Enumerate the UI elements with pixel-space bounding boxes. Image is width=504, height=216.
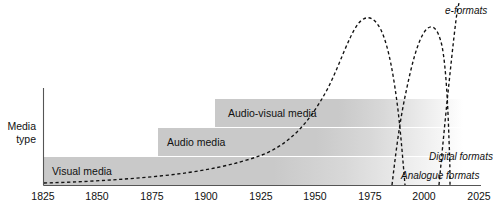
x-axis-ticks: 1825 1850 1875 1900 1925 1950 1975 2000 … — [31, 190, 491, 202]
curve-label-digital-formats: Digital formats — [429, 151, 493, 162]
x-tick-label: 1900 — [194, 190, 218, 202]
band-label-audio-media: Audio media — [167, 136, 226, 148]
curve-label-analogue-formats: Analogue formats — [400, 170, 479, 181]
y-axis-label-line2: type — [16, 133, 36, 145]
x-tick-label: 2025 — [467, 190, 491, 202]
band-label-visual-media: Visual media — [52, 165, 112, 177]
chart-container: Visual media Audio media Audio-visual me… — [0, 0, 504, 216]
band-label-audio-visual-media: Audio-visual media — [228, 107, 317, 119]
curve-label-e-formats: e-formats — [445, 5, 487, 16]
y-axis-label-line1: Media — [7, 120, 36, 132]
media-formats-chart: Visual media Audio media Audio-visual me… — [0, 0, 504, 216]
x-tick-label: 1975 — [358, 190, 382, 202]
x-tick-label: 1875 — [140, 190, 164, 202]
x-tick-label: 1850 — [85, 190, 109, 202]
x-tick-label: 1925 — [249, 190, 273, 202]
x-tick-label: 2000 — [412, 190, 436, 202]
x-tick-label: 1950 — [303, 190, 327, 202]
x-tick-label: 1825 — [31, 190, 55, 202]
